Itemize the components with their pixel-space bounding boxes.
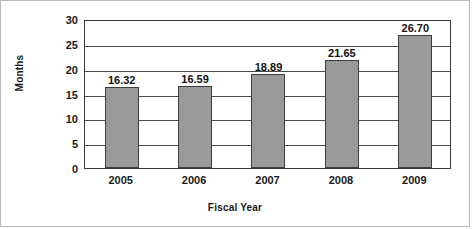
bar[interactable] [251, 74, 285, 168]
y-axis-tick-label: 30 [48, 14, 78, 26]
y-axis-tick-labels: 302520151050 [48, 20, 78, 169]
bar-value-label: 16.59 [181, 73, 209, 85]
y-axis-tick-label: 0 [48, 163, 78, 175]
bar-value-label: 16.32 [108, 74, 136, 86]
x-axis-tick-label: 2005 [108, 174, 132, 186]
bar-slot: 16.32 [85, 21, 158, 168]
bar-slot: 26.70 [379, 21, 452, 168]
bar-slot: 16.59 [158, 21, 231, 168]
y-axis-tick-label: 20 [48, 64, 78, 76]
bar[interactable] [325, 60, 359, 168]
bar-slot: 18.89 [232, 21, 305, 168]
x-axis-title: Fiscal Year [1, 202, 469, 213]
bar-value-label: 18.89 [255, 61, 283, 73]
x-axis-tick-labels: 20052006200720082009 [84, 174, 451, 192]
x-axis-tick-label: 2006 [182, 174, 206, 186]
bar[interactable] [178, 86, 212, 168]
bar-slot: 21.65 [305, 21, 378, 168]
x-axis-tick-label: 2008 [329, 174, 353, 186]
x-axis-tick-label: 2009 [402, 174, 426, 186]
plot-area: 16.3216.5918.8921.6526.70 [84, 20, 451, 169]
y-axis-tick-label: 10 [48, 113, 78, 125]
bar-value-label: 21.65 [328, 47, 356, 59]
x-axis-tick-label: 2007 [255, 174, 279, 186]
y-axis-title: Months [14, 38, 34, 108]
bar[interactable] [105, 87, 139, 168]
bar-value-label: 26.70 [402, 22, 430, 34]
y-axis-tick-label: 25 [48, 39, 78, 51]
y-axis-tick-label: 5 [48, 138, 78, 150]
chart-figure: Months 302520151050 16.3216.5918.8921.65… [0, 0, 470, 227]
y-axis-tick-label: 15 [48, 89, 78, 101]
bar-series: 16.3216.5918.8921.6526.70 [85, 21, 450, 168]
bar[interactable] [398, 35, 432, 168]
